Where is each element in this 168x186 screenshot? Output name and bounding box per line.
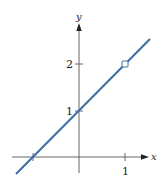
x-tick-label-1: 1: [122, 165, 129, 178]
x-axis-label: x: [151, 151, 157, 162]
function-graph: x y 1 1 2: [0, 0, 168, 186]
open-point-marker-icon: [122, 61, 128, 67]
y-tick-label-2: 2: [66, 58, 73, 71]
x-axis-arrow-icon: [141, 154, 149, 159]
function-line: [16, 39, 150, 174]
y-tick-label-1: 1: [66, 105, 73, 118]
y-axis-label: y: [75, 11, 82, 22]
y-axis-arrow-icon: [76, 23, 81, 31]
plot-canvas: x y 1 1 2: [0, 0, 168, 186]
